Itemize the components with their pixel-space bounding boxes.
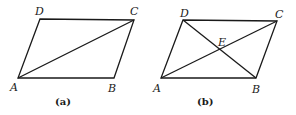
diagonal-bd-b	[183, 20, 256, 78]
vertex-label-d: D	[34, 5, 44, 18]
vertex-label-a: A	[9, 81, 18, 94]
caption-a: (a)	[55, 96, 71, 107]
caption-b: (b)	[197, 96, 213, 107]
vertex-label-c: C	[130, 5, 139, 18]
vertex-label-b: B	[251, 83, 260, 96]
figure-a: D C A B (a)	[9, 5, 139, 107]
vertex-label-d: D	[179, 7, 189, 20]
figure-b: D C E A B (b)	[152, 7, 284, 107]
vertex-label-b: B	[107, 82, 116, 95]
vertex-label-a: A	[152, 82, 161, 95]
vertex-label-c: C	[275, 8, 284, 21]
vertex-label-e: E	[217, 36, 226, 49]
parallelogram-diagrams: D C A B (a) D C E A B (b)	[0, 0, 296, 115]
